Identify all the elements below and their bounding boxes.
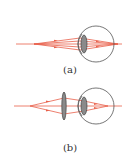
eye-lens-b [81, 97, 87, 115]
corrective-lens-b [62, 92, 66, 120]
panel-a: (a) [0, 0, 136, 82]
light-rays-a [16, 38, 122, 50]
caption-a: (a) [55, 64, 85, 75]
eye-lens-a [81, 35, 87, 53]
panel-b: (b) [0, 82, 136, 164]
caption-b: (b) [55, 142, 85, 153]
light-rays-b [14, 98, 122, 114]
